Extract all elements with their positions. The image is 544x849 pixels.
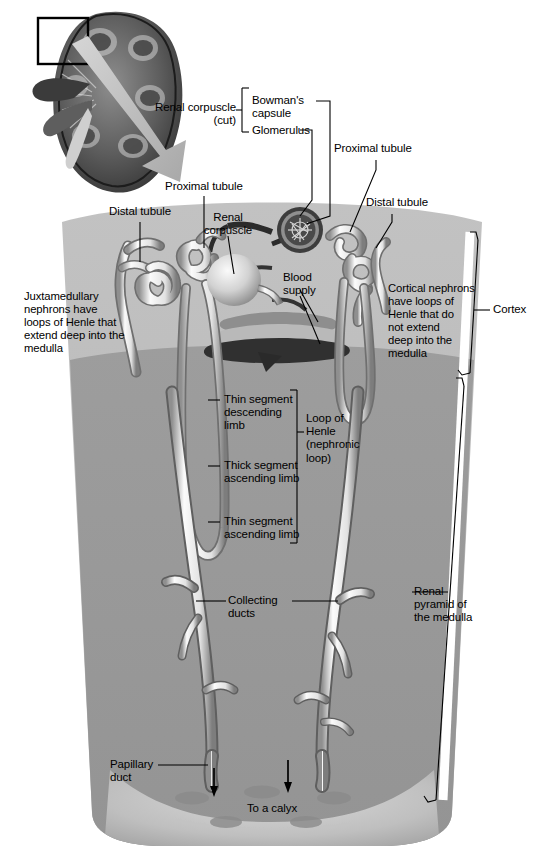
label-thin-segment-descending-limb: Thin segment descending limb <box>224 393 292 433</box>
label-cortex: Cortex <box>493 303 526 316</box>
label-distal-tubule-left: Distal tubule <box>86 205 194 218</box>
label-papillary-duct: Papillary duct <box>110 758 153 784</box>
label-glomerulus: Glomerulus <box>252 124 310 137</box>
label-renal-corpuscle-cut: Renal corpuscle (cut) <box>128 101 236 127</box>
nephron-figure: Renal corpuscle (cut) Bowman's capsule G… <box>0 0 544 849</box>
renal-corpuscle-cut <box>277 207 323 253</box>
label-to-a-calyx: To a calyx <box>222 802 322 815</box>
label-proximal-tubule-left: Proximal tubule <box>144 180 264 193</box>
label-loop-of-henle: Loop of Henle (nephronic loop) <box>306 412 359 465</box>
label-blood-supply: Blood supply <box>283 271 316 297</box>
label-renal-corpuscle: Renal corpuscle <box>190 211 266 237</box>
label-proximal-tubule-right: Proximal tubule <box>334 142 412 155</box>
label-thick-segment-ascending-limb: Thick segment ascending limb <box>224 459 299 485</box>
label-renal-pyramid-of-medulla: Renal pyramid of the medulla <box>414 585 472 625</box>
label-thin-segment-ascending-limb: Thin segment ascending limb <box>224 515 299 541</box>
label-distal-tubule-right: Distal tubule <box>366 196 428 209</box>
label-cortical-nephrons: Cortical nephrons have loops of Henle th… <box>388 282 504 360</box>
label-juxtamedullary-nephrons: Juxtamedullary nephrons have loops of He… <box>24 290 164 355</box>
label-collecting-ducts: Collecting ducts <box>228 594 278 620</box>
label-bowmans-capsule: Bowman's capsule <box>252 94 304 120</box>
